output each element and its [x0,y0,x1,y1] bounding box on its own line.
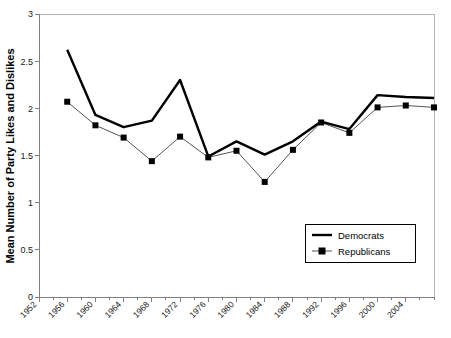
x-tick-label: 2004 [385,299,406,320]
y-tick-label: 0.5 [20,245,33,255]
series-line-republicans [67,102,434,182]
x-tick-label: 1964 [103,299,124,320]
x-axis-ticks [39,297,434,302]
x-tick-label: 1968 [131,299,152,320]
x-tick-label: 1988 [272,299,293,320]
data-point-marker [64,99,70,105]
y-axis-ticks [35,14,39,297]
data-point-marker [375,104,381,110]
data-point-marker [149,158,155,164]
data-point-marker [121,135,127,141]
x-tick-label: 1984 [244,299,265,320]
y-tick-label: 1 [28,198,33,208]
x-tick-label: 1992 [300,299,321,320]
x-tick-label: 1976 [187,299,208,320]
data-point-marker [92,122,98,128]
y-axis-title: Mean Number of Party Likes and Dislikes [4,48,16,263]
data-point-marker [403,103,409,109]
y-tick-label: 2.5 [20,57,33,67]
data-point-marker [290,147,296,153]
y-axis-tick-labels: 00.511.522.53 [20,9,33,302]
data-point-marker [346,130,352,136]
legend-label-republicans: Republicans [338,246,391,257]
chart-figure: 00.511.522.53 19521956196019641968197219… [0,0,451,338]
legend-label-democrats: Democrats [338,230,384,241]
x-tick-label: 2000 [357,299,378,320]
series-markers-republicans [64,99,437,185]
data-point-marker [234,148,240,154]
x-axis-tick-labels: 1952195619601964196819721976198019841988… [18,299,405,320]
chart-legend: Democrats Republicans [305,224,415,262]
y-tick-label: 3 [28,9,33,19]
y-tick-label: 2 [28,104,33,114]
x-tick-label: 1960 [74,299,95,320]
data-point-marker [177,134,183,140]
chart-svg: 00.511.522.53 19521956196019641968197219… [0,0,451,338]
legend-swatch-republicans-marker [319,248,326,255]
x-tick-label: 1956 [46,299,67,320]
data-point-marker [262,179,268,185]
y-tick-label: 1.5 [20,151,33,161]
x-tick-label: 1980 [215,299,236,320]
x-tick-label: 1996 [328,299,349,320]
x-tick-label: 1972 [159,299,180,320]
x-tick-label: 1952 [18,299,39,320]
data-point-marker [431,104,437,110]
